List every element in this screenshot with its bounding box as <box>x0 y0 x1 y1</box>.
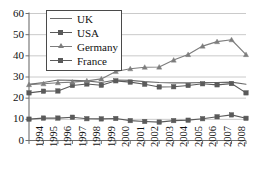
data-point-usa <box>143 82 147 86</box>
data-point-usa <box>56 89 60 93</box>
data-point-usa <box>215 83 219 87</box>
x-axis-tick-label: 2003 <box>164 126 175 147</box>
y-axis-tick-label: 50 <box>0 28 24 40</box>
x-axis-tick-label: 1999 <box>106 126 117 147</box>
data-point-france <box>186 118 190 122</box>
y-axis-tick-label: 10 <box>0 112 24 124</box>
x-axis-tick-label: 2001 <box>135 126 146 147</box>
data-point-germany <box>186 52 191 57</box>
x-axis-tick-label: 2009 <box>251 126 253 147</box>
y-axis-tick-label: 60 <box>0 7 24 19</box>
data-point-usa <box>186 83 190 87</box>
data-point-france <box>56 116 60 120</box>
data-point-france <box>200 117 204 121</box>
data-point-france <box>244 116 248 120</box>
x-axis-tick-label: 2004 <box>178 126 189 147</box>
data-point-france <box>70 115 74 119</box>
data-point-france <box>143 119 147 123</box>
legend-item-uk: UK <box>48 12 119 26</box>
legend-marker-icon <box>48 54 74 68</box>
legend-item-france: France <box>48 54 119 68</box>
x-axis-tick-label: 1994 <box>34 126 45 147</box>
line-chart: 0102030405060 19941995199619971998199920… <box>0 0 252 184</box>
x-axis-tick-label: 2000 <box>120 126 131 147</box>
data-point-france <box>157 120 161 124</box>
x-axis-tick-label: 2006 <box>207 126 218 147</box>
legend-item-germany: Germany <box>48 40 119 54</box>
x-axis-tick-label: 1997 <box>77 126 88 147</box>
y-axis-tick-label: 20 <box>0 91 24 103</box>
data-point-france <box>215 115 219 119</box>
x-axis-tick-label: 2005 <box>193 126 204 147</box>
legend-marker-icon <box>48 40 74 54</box>
x-axis-tick-label: 1996 <box>62 126 73 147</box>
legend-marker-icon <box>48 26 74 40</box>
data-point-usa <box>128 80 132 84</box>
data-point-usa <box>41 89 45 93</box>
data-point-france <box>229 113 233 117</box>
data-point-france <box>27 117 31 121</box>
x-axis-tick-label: 2007 <box>222 126 233 147</box>
data-point-france <box>85 117 89 121</box>
legend-item-label: Germany <box>74 40 118 54</box>
x-axis-tick-label: 1995 <box>48 126 59 147</box>
data-point-france <box>41 116 45 120</box>
legend-marker-icon <box>48 12 74 26</box>
data-point-france <box>171 118 175 122</box>
data-point-usa <box>200 82 204 86</box>
legend-item-label: France <box>74 54 107 68</box>
series-line-france <box>29 115 246 122</box>
chart-legend: UKUSAGermanyFrance <box>46 10 122 71</box>
data-point-usa <box>171 85 175 89</box>
data-point-usa <box>99 83 103 87</box>
data-point-france <box>128 118 132 122</box>
data-point-usa <box>114 79 118 83</box>
x-axis-tick-label: 1998 <box>91 126 102 147</box>
x-axis-tick-label: 2008 <box>236 126 247 147</box>
data-point-usa <box>157 85 161 89</box>
y-axis-tick-label: 0 <box>0 134 24 146</box>
y-axis-tick-label: 30 <box>0 70 24 82</box>
chart-plot-area <box>0 0 252 184</box>
legend-item-label: UK <box>74 12 93 26</box>
data-point-france <box>114 116 118 120</box>
data-point-usa <box>27 91 31 95</box>
data-point-france <box>99 117 103 121</box>
y-axis-tick-label: 40 <box>0 49 24 61</box>
legend-item-label: USA <box>74 26 99 40</box>
data-point-usa <box>229 81 233 85</box>
x-axis-tick-label: 2002 <box>149 126 160 147</box>
legend-item-usa: USA <box>48 26 119 40</box>
data-point-usa <box>244 91 248 95</box>
